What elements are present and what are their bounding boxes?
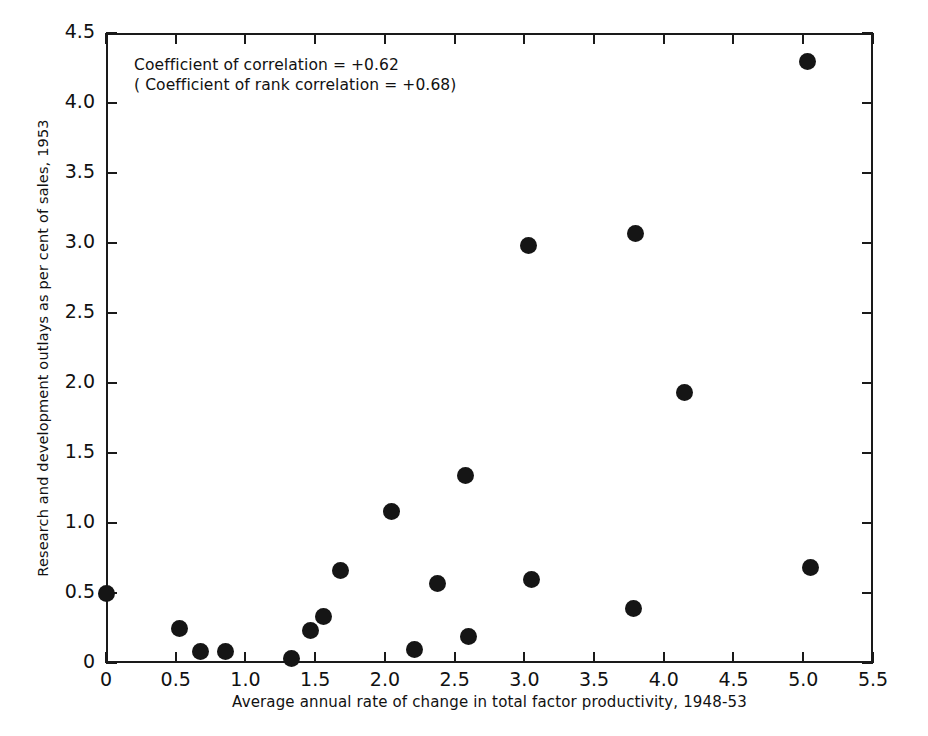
y-axis-tick-label: 3.5 — [65, 160, 95, 182]
x-axis-tick — [663, 652, 665, 663]
y-axis-tick-right — [862, 592, 873, 594]
x-axis-tick-top — [663, 33, 665, 44]
plot-area-frame — [106, 33, 873, 663]
x-axis-tick-label: 1.5 — [300, 668, 330, 690]
x-axis-tick — [105, 652, 107, 663]
y-axis-tick-label: 1.0 — [65, 510, 95, 532]
x-axis-tick-label: 0 — [100, 668, 112, 690]
y-axis-tick — [106, 662, 117, 664]
y-axis-title: Research and development outlays as per … — [30, 33, 56, 663]
y-axis-tick-right — [862, 452, 873, 454]
y-axis-tick — [106, 522, 117, 524]
data-point — [799, 53, 816, 70]
x-axis-tick-top — [175, 33, 177, 44]
y-axis-tick — [106, 452, 117, 454]
y-axis-tick — [106, 102, 117, 104]
annotation-line-rank-correlation: ( Coefficient of rank correlation = +0.6… — [134, 75, 456, 95]
data-point — [98, 585, 115, 602]
x-axis-tick — [802, 652, 804, 663]
x-axis-tick-top — [802, 33, 804, 44]
x-axis-tick-label: 5.5 — [858, 668, 888, 690]
y-axis-tick-right — [862, 242, 873, 244]
y-axis-tick-right — [862, 172, 873, 174]
data-point — [460, 628, 477, 645]
x-axis-tick-top — [732, 33, 734, 44]
y-axis-tick-right — [862, 522, 873, 524]
data-point — [625, 600, 642, 617]
x-axis-tick-top — [105, 33, 107, 44]
y-axis-tick — [106, 32, 117, 34]
x-axis-tick-top — [244, 33, 246, 44]
x-axis-tick — [523, 652, 525, 663]
x-axis-tick — [593, 652, 595, 663]
x-axis-tick — [175, 652, 177, 663]
x-axis-tick-label: 1.0 — [230, 668, 260, 690]
x-axis-tick-label: 5.0 — [788, 668, 818, 690]
data-point — [429, 575, 446, 592]
y-axis-tick-label: 4.5 — [65, 20, 95, 42]
x-axis-tick — [872, 652, 874, 663]
x-axis-tick — [732, 652, 734, 663]
y-axis-tick-label: 3.0 — [65, 230, 95, 252]
y-axis-tick-label: 0 — [83, 650, 95, 672]
y-axis-tick — [106, 242, 117, 244]
x-axis-tick-label: 0.5 — [161, 668, 191, 690]
y-axis-tick-label: 0.5 — [65, 580, 95, 602]
x-axis-tick-label: 3.0 — [509, 668, 539, 690]
y-axis-tick-right — [862, 102, 873, 104]
y-axis-tick-right — [862, 382, 873, 384]
y-axis-tick — [106, 382, 117, 384]
data-point — [523, 571, 540, 588]
y-axis-tick-right — [862, 312, 873, 314]
x-axis-tick — [454, 652, 456, 663]
x-axis-tick-label: 4.5 — [718, 668, 748, 690]
x-axis-tick-top — [384, 33, 386, 44]
x-axis-tick-label: 2.0 — [370, 668, 400, 690]
x-axis-tick-top — [454, 33, 456, 44]
y-axis-tick-label: 1.5 — [65, 440, 95, 462]
y-axis-tick — [106, 312, 117, 314]
y-axis-tick-label: 4.0 — [65, 90, 95, 112]
x-axis-tick — [244, 652, 246, 663]
y-axis-tick-label: 2.0 — [65, 370, 95, 392]
scatter-plot-figure: Coefficient of correlation = +0.62 ( Coe… — [0, 0, 928, 736]
x-axis-tick — [314, 652, 316, 663]
data-point — [627, 225, 644, 242]
x-axis-title: Average annual rate of change in total f… — [106, 693, 873, 711]
annotation-line-correlation: Coefficient of correlation = +0.62 — [134, 55, 456, 75]
x-axis-tick-top — [872, 33, 874, 44]
data-point — [283, 650, 300, 667]
x-axis-tick-label: 3.5 — [579, 668, 609, 690]
data-point — [171, 620, 188, 637]
x-axis-tick-label: 4.0 — [649, 668, 679, 690]
data-point — [406, 641, 423, 658]
x-axis-tick — [384, 652, 386, 663]
x-axis-tick-label: 2.5 — [440, 668, 470, 690]
data-point — [802, 559, 819, 576]
y-axis-tick — [106, 172, 117, 174]
y-axis-tick-label: 2.5 — [65, 300, 95, 322]
x-axis-tick-top — [523, 33, 525, 44]
data-point — [332, 562, 349, 579]
x-axis-tick-top — [593, 33, 595, 44]
x-axis-tick-top — [314, 33, 316, 44]
correlation-annotation: Coefficient of correlation = +0.62 ( Coe… — [134, 55, 456, 95]
